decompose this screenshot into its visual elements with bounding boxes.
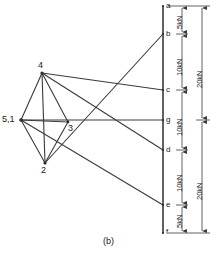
load-point-g: [162, 119, 164, 121]
load-point-b: [162, 33, 164, 35]
edge-51-2: [21, 120, 45, 163]
load-point-f: [162, 232, 164, 234]
load-point-label-b: b: [166, 30, 170, 38]
edge-3-2: [45, 122, 68, 163]
polygon-node-label-51: 5,1: [2, 115, 15, 124]
load-point-label-d: d: [166, 146, 170, 154]
edge-4-3: [42, 73, 68, 122]
load-point-a: [162, 5, 164, 7]
dim-label-b-c: 10kN: [176, 58, 184, 76]
dim-label-c-d: 10kN: [176, 118, 184, 136]
polygon-node-label-3: 3: [68, 124, 73, 133]
force-polygon-edges: [21, 73, 68, 163]
load-point-d: [162, 149, 164, 151]
dim-label-a-b: 5kN: [176, 16, 184, 29]
load-point-label-e: e: [166, 201, 170, 209]
load-point-label-c: c: [166, 86, 170, 94]
dim-label-e-f: 5kN: [176, 215, 184, 228]
ray-4-d: [42, 73, 163, 150]
edge-51-4: [21, 73, 42, 120]
dim-label-a-g: 20kN: [196, 70, 204, 88]
maxwell-force-diagram: [0, 0, 217, 255]
ray-51-e: [21, 120, 163, 205]
polygon-node-label-4: 4: [38, 61, 43, 70]
node-dot-4: [40, 71, 43, 74]
dim-label-d-e: 10kN: [176, 174, 184, 192]
load-point-label-a: a: [166, 2, 170, 10]
node-dot-51: [19, 118, 23, 122]
load-point-label-f: f: [166, 228, 168, 236]
load-point-c: [162, 89, 164, 91]
polygon-node-label-2: 2: [41, 166, 46, 175]
edge-4-2: [42, 73, 45, 163]
ray-2-b: [45, 34, 163, 163]
dim-label-g-f: 20kN: [196, 182, 204, 200]
load-point-label-g: g: [166, 116, 170, 124]
load-point-e: [162, 204, 164, 206]
figure-caption: (b): [0, 236, 217, 246]
ray-4-c: [42, 73, 163, 90]
